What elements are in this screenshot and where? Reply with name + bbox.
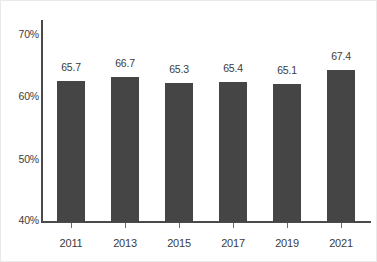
x-axis-tick-mark bbox=[341, 223, 342, 228]
bars-container: 65.7 66.7 65.3 65.4 65.1 67.4 bbox=[44, 20, 371, 222]
bar-value-label: 67.4 bbox=[331, 50, 351, 62]
x-axis-tick-mark bbox=[179, 223, 180, 228]
x-axis-tick-mark bbox=[233, 223, 234, 228]
bar-value-label: 65.3 bbox=[169, 63, 189, 75]
bar[interactable] bbox=[219, 82, 247, 222]
bar-value-label: 65.1 bbox=[277, 64, 297, 76]
y-axis-tick-label: 70% bbox=[5, 29, 39, 40]
bar-slot: 65.7 bbox=[44, 20, 98, 222]
y-axis-tick-label: 50% bbox=[5, 154, 39, 165]
bar-slot: 65.3 bbox=[152, 20, 206, 222]
y-axis-tick-label: 40% bbox=[5, 215, 39, 226]
bar[interactable] bbox=[327, 70, 355, 222]
bar-value-label: 66.7 bbox=[115, 57, 135, 69]
bar[interactable] bbox=[111, 77, 139, 222]
x-axis-tick-label: 2019 bbox=[260, 237, 314, 249]
bar[interactable] bbox=[273, 84, 301, 222]
x-axis-tick-label: 2017 bbox=[206, 237, 260, 249]
x-axis-tick-label: 2013 bbox=[98, 237, 152, 249]
x-axis-tick-label: 2015 bbox=[152, 237, 206, 249]
x-axis-tick-label: 2011 bbox=[44, 237, 98, 249]
bar[interactable] bbox=[57, 81, 85, 222]
bar-value-label: 65.7 bbox=[61, 61, 81, 73]
bar[interactable] bbox=[165, 83, 193, 222]
bar-slot: 65.1 bbox=[260, 20, 314, 222]
bar-slot: 67.4 bbox=[314, 20, 368, 222]
bar-slot: 66.7 bbox=[98, 20, 152, 222]
bar-slot: 65.4 bbox=[206, 20, 260, 222]
x-axis-tick-label: 2021 bbox=[314, 237, 368, 249]
y-axis-tick-label: 60% bbox=[5, 91, 39, 102]
y-axis-line bbox=[41, 20, 43, 223]
x-axis-tick-mark bbox=[287, 223, 288, 228]
x-axis-tick-mark bbox=[71, 223, 72, 228]
bar-chart: 70% 60% 50% 40% 65.7 66.7 65.3 65.4 65.1 bbox=[0, 0, 377, 262]
x-axis-tick-mark bbox=[125, 223, 126, 228]
y-axis-tick-labels: 70% 60% 50% 40% bbox=[1, 1, 39, 262]
bar-value-label: 65.4 bbox=[223, 62, 243, 74]
